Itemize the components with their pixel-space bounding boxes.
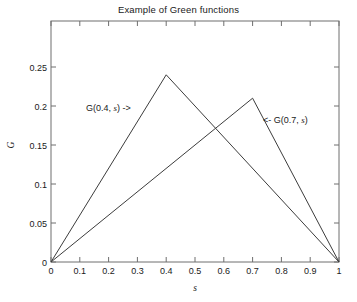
x-tick-label: 0.1 [74,266,87,276]
x-tick-label: 0.4 [160,266,173,276]
annotation-g04-suffix: ) -> [117,103,131,113]
annotation-g07-prefix: <- G(0.7, [263,115,301,125]
annotation-g04-label: G(0.4, s) -> [86,103,131,113]
annotation-g07-label: <- G(0.7, s) [263,115,308,125]
x-tick-marks [51,257,339,262]
x-tick-label: 0.8 [275,266,288,276]
annotation-g07-suffix: ) [305,115,308,125]
x-tick-label: 0.3 [131,266,144,276]
x-tick-label: 0.5 [189,266,202,276]
x-tick-label: 1 [336,266,341,276]
y-tick-label: 0.25 [29,63,47,73]
x-axis-title: s [193,283,197,293]
y-tick-label: 0.05 [29,219,47,229]
y-tick-label: 0.15 [29,141,47,151]
y-tick-label: 0 [42,258,47,268]
x-tick-labels: 0 0.1 0.2 0.3 0.4 0.5 0.6 0.7 0.8 0.9 1 [48,266,341,276]
y-tick-label: 0.2 [34,102,47,112]
y-axis-title: G [6,141,16,148]
x-tick-marks-top [51,21,339,26]
x-tick-label: 0.7 [246,266,259,276]
plot-area: 0 0.1 0.2 0.3 0.4 0.5 0.6 0.7 0.8 0.9 1 … [0,0,357,302]
figure-container: Example of Green functions [0,0,357,302]
y-tick-marks-right [334,67,339,262]
annotation-g04-prefix: G(0.4, [86,103,114,113]
axes-frame [51,21,339,262]
y-tick-marks [51,67,56,262]
y-tick-labels: 0 0.05 0.1 0.15 0.2 0.25 [29,63,47,268]
x-tick-label: 0 [48,266,53,276]
y-tick-label: 0.1 [34,180,47,190]
x-tick-label: 0.6 [218,266,231,276]
x-tick-label: 0.9 [304,266,317,276]
x-tick-label: 0.2 [102,266,115,276]
